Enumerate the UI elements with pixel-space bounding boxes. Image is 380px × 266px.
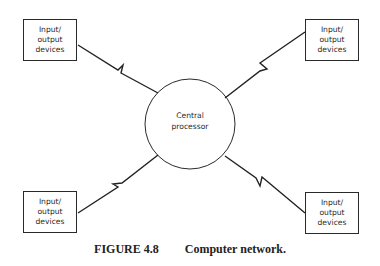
io-box-line3: devices <box>318 45 347 55</box>
io-box-line2: output <box>36 35 65 45</box>
central-processor-line2: processor <box>150 121 230 132</box>
link-bottom-left <box>78 155 158 213</box>
io-box-line3: devices <box>36 217 65 227</box>
diagram-canvas: Central processor Input/ output devices … <box>0 0 380 266</box>
central-processor-line1: Central <box>150 110 230 121</box>
io-devices-box-top-right: Input/ output devices <box>305 19 359 61</box>
io-devices-box-top-left: Input/ output devices <box>23 19 77 61</box>
figure-number: FIGURE 4.8 <box>94 242 159 257</box>
io-devices-box-bottom-right: Input/ output devices <box>305 192 359 234</box>
io-box-line2: output <box>318 35 347 45</box>
io-box-line1: Input/ <box>36 25 65 35</box>
link-top-left <box>78 45 158 93</box>
io-devices-box-bottom-left: Input/ output devices <box>23 191 77 233</box>
io-box-line1: Input/ <box>318 25 347 35</box>
io-box-line1: Input/ <box>36 197 65 207</box>
io-box-line3: devices <box>36 45 65 55</box>
link-bottom-right <box>225 156 305 213</box>
io-box-line1: Input/ <box>318 198 347 208</box>
io-box-line2: output <box>318 208 347 218</box>
io-box-line3: devices <box>318 218 347 228</box>
figure-caption: FIGURE 4.8Computer network. <box>0 242 380 257</box>
link-top-right <box>225 32 305 98</box>
figure-title: Computer network. <box>185 242 286 256</box>
central-processor-label: Central processor <box>150 110 230 132</box>
io-box-line2: output <box>36 207 65 217</box>
